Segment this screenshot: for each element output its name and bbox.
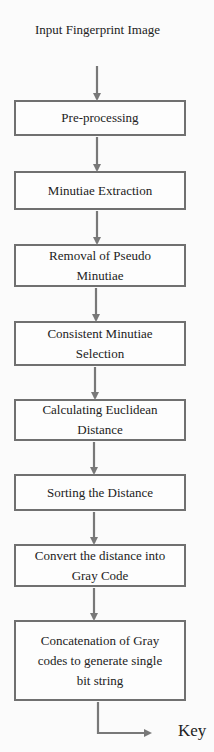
arrow-step8-to-key [98, 702, 150, 733]
connector-arrows [0, 0, 214, 752]
